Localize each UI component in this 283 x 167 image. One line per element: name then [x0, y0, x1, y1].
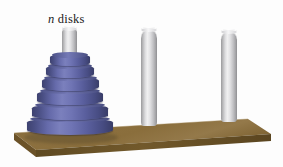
- peg-right: [221, 31, 237, 122]
- disk-4: [37, 90, 103, 105]
- disk-1: [50, 54, 90, 66]
- disk-5: [32, 104, 108, 120]
- peg-middle: [141, 29, 157, 126]
- label-text: disks: [54, 12, 84, 26]
- disk-6: [27, 118, 113, 135]
- disk-2: [46, 65, 94, 78]
- disk-3: [42, 77, 99, 91]
- n-disks-label: n disks: [48, 12, 84, 27]
- tower-of-hanoi-figure: n disks: [0, 0, 283, 167]
